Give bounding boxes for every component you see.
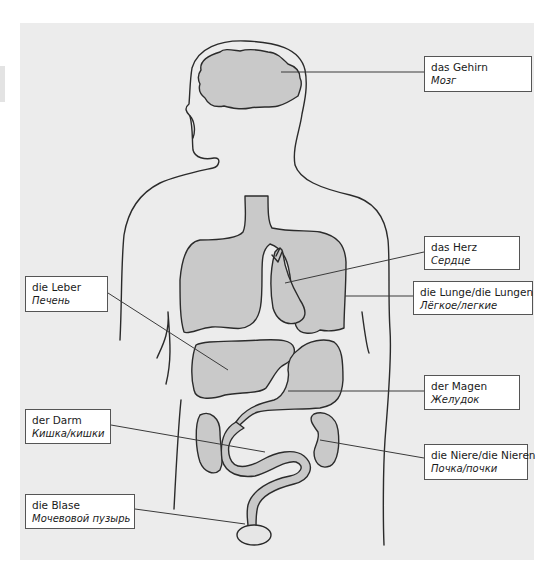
lungs-shape (180, 196, 346, 333)
brain-shape (198, 49, 301, 108)
intestine-shape (221, 422, 310, 527)
kidney-right-shape (311, 413, 339, 467)
german-term: die Blase (32, 498, 128, 512)
russian-term: Печень (32, 294, 101, 308)
kidney-label: die Niere/die Nieren Почка/почки (424, 444, 528, 480)
german-term: der Magen (431, 379, 513, 393)
russian-term: Мозг (431, 74, 525, 88)
german-term: die Niere/die Nieren (431, 448, 521, 462)
russian-term: Лёгкое/легкие (420, 299, 526, 313)
german-term: das Gehirn (431, 60, 525, 74)
brain-label: das Gehirn Мозг (424, 56, 532, 92)
german-term: die Leber (32, 280, 101, 294)
lung-label: die Lunge/die Lungen Лёгкое/легкие (413, 281, 533, 315)
german-term: das Herz (431, 240, 513, 254)
bladder-shape (237, 525, 271, 545)
russian-term: Желудок (431, 393, 513, 407)
german-term: die Lunge/die Lungen (420, 285, 526, 299)
kidney-left-shape (196, 414, 222, 473)
german-term: der Darm (32, 413, 104, 427)
russian-term: Кишка/кишки (32, 427, 104, 441)
liver-shape (192, 340, 295, 399)
heart-label: das Herz Сердце (424, 236, 520, 270)
left-arm-outline (157, 312, 170, 384)
stomach-label: der Magen Желудок (424, 375, 520, 410)
intestine-label: der Darm Кишка/кишки (25, 409, 111, 444)
russian-term: Мочевовой пузырь (32, 512, 128, 526)
right-arm-outline (362, 312, 369, 353)
russian-term: Сердце (431, 254, 513, 268)
bladder-leader-line (135, 509, 245, 524)
liver-label: die Leber Печень (25, 276, 108, 312)
russian-term: Почка/почки (431, 462, 521, 476)
bladder-label: die Blase Мочевовой пузырь (25, 494, 135, 529)
left-side-outline (174, 400, 181, 509)
leader-lines (108, 72, 424, 524)
